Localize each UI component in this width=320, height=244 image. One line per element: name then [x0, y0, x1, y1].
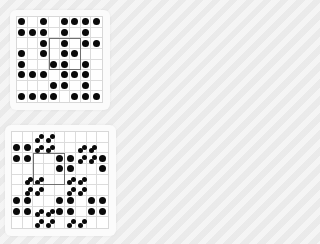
grid-cell[interactable] [65, 153, 76, 164]
grid-cell[interactable] [33, 185, 44, 196]
top-puzzle-grid[interactable] [16, 16, 103, 103]
grid-cell[interactable] [81, 91, 92, 102]
grid-cell[interactable] [76, 153, 87, 164]
grid-cell[interactable] [65, 132, 76, 143]
grid-cell[interactable] [76, 143, 87, 154]
grid-cell[interactable] [81, 60, 92, 71]
grid-cell[interactable] [12, 164, 23, 175]
grid-cell[interactable] [44, 164, 55, 175]
grid-cell[interactable] [70, 17, 81, 28]
grid-cell[interactable] [55, 132, 66, 143]
grid-cell[interactable] [60, 38, 71, 49]
grid-cell[interactable] [70, 49, 81, 60]
grid-cell[interactable] [87, 153, 98, 164]
grid-cell[interactable] [33, 164, 44, 175]
grid-cell[interactable] [87, 143, 98, 154]
grid-cell[interactable] [55, 143, 66, 154]
grid-cell[interactable] [17, 49, 28, 60]
grid-cell[interactable] [17, 60, 28, 71]
grid-cell[interactable] [33, 175, 44, 186]
grid-cell[interactable] [91, 70, 102, 81]
grid-cell[interactable] [44, 185, 55, 196]
grid-cell[interactable] [60, 70, 71, 81]
grid-cell[interactable] [17, 81, 28, 92]
grid-cell[interactable] [65, 143, 76, 154]
grid-cell[interactable] [38, 28, 49, 39]
grid-cell[interactable] [33, 143, 44, 154]
grid-cell[interactable] [97, 143, 108, 154]
bottom-puzzle-grid[interactable] [11, 131, 109, 229]
grid-cell[interactable] [76, 132, 87, 143]
grid-cell[interactable] [87, 175, 98, 186]
grid-cell[interactable] [65, 207, 76, 218]
grid-cell[interactable] [49, 38, 60, 49]
grid-cell[interactable] [44, 132, 55, 143]
grid-cell[interactable] [81, 17, 92, 28]
grid-cell[interactable] [49, 60, 60, 71]
grid-cell[interactable] [23, 196, 34, 207]
grid-cell[interactable] [76, 196, 87, 207]
grid-cell[interactable] [12, 153, 23, 164]
grid-cell[interactable] [44, 217, 55, 228]
grid-cell[interactable] [87, 217, 98, 228]
grid-cell[interactable] [76, 164, 87, 175]
grid-cell[interactable] [17, 17, 28, 28]
grid-cell[interactable] [28, 38, 39, 49]
grid-cell[interactable] [60, 60, 71, 71]
grid-cell[interactable] [70, 91, 81, 102]
grid-cell[interactable] [23, 175, 34, 186]
grid-cell[interactable] [81, 28, 92, 39]
grid-cell[interactable] [28, 91, 39, 102]
grid-cell[interactable] [76, 175, 87, 186]
grid-cell[interactable] [33, 207, 44, 218]
grid-cell[interactable] [49, 91, 60, 102]
grid-cell[interactable] [23, 164, 34, 175]
grid-cell[interactable] [87, 164, 98, 175]
grid-cell[interactable] [33, 153, 44, 164]
grid-cell[interactable] [38, 17, 49, 28]
grid-cell[interactable] [12, 175, 23, 186]
grid-cell[interactable] [49, 17, 60, 28]
grid-cell[interactable] [76, 185, 87, 196]
grid-cell[interactable] [97, 217, 108, 228]
grid-cell[interactable] [70, 60, 81, 71]
grid-cell[interactable] [81, 38, 92, 49]
grid-cell[interactable] [65, 185, 76, 196]
grid-cell[interactable] [70, 81, 81, 92]
grid-cell[interactable] [87, 207, 98, 218]
grid-cell[interactable] [23, 217, 34, 228]
grid-cell[interactable] [28, 70, 39, 81]
grid-cell[interactable] [49, 49, 60, 60]
grid-cell[interactable] [97, 164, 108, 175]
grid-cell[interactable] [97, 175, 108, 186]
grid-cell[interactable] [23, 185, 34, 196]
grid-cell[interactable] [70, 28, 81, 39]
grid-cell[interactable] [65, 217, 76, 228]
grid-cell[interactable] [70, 70, 81, 81]
grid-cell[interactable] [87, 196, 98, 207]
grid-cell[interactable] [55, 185, 66, 196]
grid-cell[interactable] [97, 207, 108, 218]
grid-cell[interactable] [91, 28, 102, 39]
grid-cell[interactable] [55, 164, 66, 175]
grid-cell[interactable] [91, 38, 102, 49]
grid-cell[interactable] [76, 217, 87, 228]
grid-cell[interactable] [87, 185, 98, 196]
grid-cell[interactable] [38, 38, 49, 49]
grid-cell[interactable] [55, 153, 66, 164]
grid-cell[interactable] [38, 70, 49, 81]
grid-cell[interactable] [12, 196, 23, 207]
grid-cell[interactable] [76, 207, 87, 218]
grid-cell[interactable] [55, 175, 66, 186]
grid-cell[interactable] [12, 207, 23, 218]
grid-cell[interactable] [97, 132, 108, 143]
grid-cell[interactable] [17, 38, 28, 49]
grid-cell[interactable] [97, 153, 108, 164]
grid-cell[interactable] [49, 70, 60, 81]
grid-cell[interactable] [28, 49, 39, 60]
grid-cell[interactable] [60, 17, 71, 28]
grid-cell[interactable] [23, 132, 34, 143]
grid-cell[interactable] [91, 81, 102, 92]
grid-cell[interactable] [12, 143, 23, 154]
grid-cell[interactable] [97, 185, 108, 196]
